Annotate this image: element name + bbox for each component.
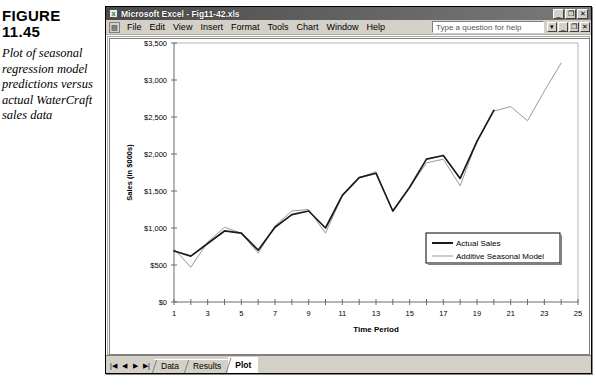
help-dropdown-icon[interactable]: ▾ — [547, 22, 557, 32]
last-sheet-button[interactable]: ▶| — [141, 359, 152, 372]
close-button[interactable]: ✕ — [577, 9, 588, 19]
window-title: Microsoft Excel - Fig11-42.xls — [121, 9, 240, 19]
y-axis-tick-label: $1,000 — [144, 224, 167, 233]
sheet-nav-buttons: |◀ ◀ ▶ ▶| — [108, 359, 152, 373]
sheet-tab-plot[interactable]: Plot — [228, 357, 258, 373]
minimize-button[interactable]: _ — [553, 9, 564, 19]
menu-item-tools[interactable]: Tools — [263, 21, 292, 34]
workbook-icon[interactable]: ▨ — [109, 22, 120, 33]
y-axis-tick-label: $1,500 — [144, 187, 167, 196]
menu-item-chart[interactable]: Chart — [292, 21, 322, 34]
x-axis-tick-label: 23 — [540, 309, 548, 318]
x-axis-tick-label: 5 — [239, 309, 243, 318]
menu-item-format[interactable]: Format — [227, 21, 264, 34]
menu-item-edit[interactable]: Edit — [146, 21, 170, 34]
figure-label-block: FIGURE 11.45 — [2, 8, 100, 40]
sheet-tab-bar: |◀ ◀ ▶ ▶| Data Results Plot — [106, 355, 591, 373]
x-axis-title: Time Period — [353, 325, 399, 334]
menu-item-view[interactable]: View — [169, 21, 196, 34]
y-axis-tick-label: $3,000 — [144, 76, 167, 85]
menu-bar: ▨ File Edit View Insert Format Tools Cha… — [106, 20, 591, 35]
y-axis-title: Sales (in $000s) — [125, 144, 134, 201]
sheet-tabs: Data Results Plot — [154, 357, 258, 373]
restore-button[interactable]: ❐ — [565, 9, 576, 19]
legend-label: Additive Seasonal Model — [456, 252, 544, 261]
doc-restore-button[interactable]: ❐ — [569, 22, 579, 32]
prev-sheet-button[interactable]: ◀ — [119, 359, 130, 372]
menu-item-window[interactable]: Window — [322, 21, 362, 34]
x-axis-tick-label: 13 — [372, 309, 380, 318]
doc-minimize-button[interactable]: _ — [558, 22, 568, 32]
figure-description: Plot of seasonal regression model predic… — [2, 46, 100, 124]
window-controls: _ ❐ ✕ — [553, 9, 590, 19]
next-sheet-button[interactable]: ▶ — [130, 359, 141, 372]
first-sheet-button[interactable]: |◀ — [108, 359, 119, 372]
y-axis-tick-label: $500 — [150, 261, 167, 270]
y-axis-tick-label: $0 — [159, 298, 167, 307]
x-axis-tick-label: 15 — [405, 309, 413, 318]
y-axis-tick-label: $3,500 — [144, 39, 167, 48]
ask-a-question-input[interactable]: Type a question for help — [432, 21, 544, 33]
chart-area-border — [110, 39, 590, 355]
excel-window: X Microsoft Excel - Fig11-42.xls _ ❐ ✕ ▨… — [105, 6, 592, 374]
excel-icon: X — [109, 9, 118, 18]
seasonal-regression-chart[interactable]: $0$500$1,000$1,500$2,000$2,500$3,000$3,5… — [108, 37, 591, 356]
legend-shadow — [560, 235, 562, 265]
x-axis-tick-label: 19 — [473, 309, 481, 318]
x-axis-tick-label: 25 — [574, 309, 582, 318]
sheet-tab-results[interactable]: Results — [186, 359, 228, 373]
y-axis-tick-label: $2,000 — [144, 150, 167, 159]
x-axis-tick-label: 7 — [273, 309, 277, 318]
x-axis-tick-label: 1 — [172, 309, 176, 318]
legend-shadow — [428, 263, 562, 265]
legend-label: Actual Sales — [456, 239, 500, 248]
x-axis-tick-label: 11 — [338, 309, 346, 318]
chart-sheet[interactable]: $0$500$1,000$1,500$2,000$2,500$3,000$3,5… — [107, 36, 590, 355]
menu-item-file[interactable]: File — [123, 21, 146, 34]
x-axis-tick-label: 3 — [206, 309, 210, 318]
x-axis-tick-label: 9 — [307, 309, 311, 318]
figure-caption: FIGURE 11.45 Plot of seasonal regression… — [0, 8, 100, 158]
doc-close-button[interactable]: ✕ — [580, 22, 590, 32]
window-titlebar[interactable]: X Microsoft Excel - Fig11-42.xls _ ❐ ✕ — [106, 7, 591, 20]
figure-number: 11.45 — [2, 24, 100, 40]
y-axis-tick-label: $2,500 — [144, 113, 167, 122]
figure-word: FIGURE — [2, 8, 100, 24]
workbook-area: $0$500$1,000$1,500$2,000$2,500$3,000$3,5… — [106, 35, 591, 373]
sheet-tab-data[interactable]: Data — [154, 359, 186, 373]
menu-item-help[interactable]: Help — [362, 21, 389, 34]
x-axis-tick-label: 17 — [439, 309, 447, 318]
menu-item-insert[interactable]: Insert — [196, 21, 227, 34]
x-axis-tick-label: 21 — [506, 309, 514, 318]
